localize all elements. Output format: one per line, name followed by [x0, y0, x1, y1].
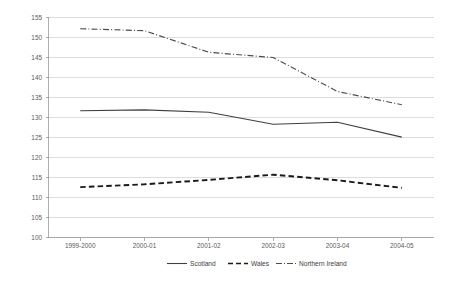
legend-label-northern-ireland: Northern Ireland — [299, 260, 347, 267]
y-tick-label: 115 — [32, 174, 43, 181]
y-tick-label: 135 — [31, 94, 42, 101]
chart-canvas: 155 150 145 140 135 130 125 120 115 110 … — [0, 0, 458, 283]
y-tick-label: 105 — [31, 214, 42, 221]
y-tick-label: 125 — [31, 134, 42, 141]
legend-label-scotland: Scotland — [190, 260, 216, 267]
y-axis-labels: 155 150 145 140 135 130 125 120 115 110 … — [31, 14, 42, 241]
y-tick-label: 155 — [31, 14, 42, 21]
y-tick-label: 145 — [31, 54, 42, 61]
y-tickmarks — [46, 18, 49, 238]
chart-legend: Scotland Wales Northern Ireland — [167, 260, 347, 267]
y-tick-label: 120 — [31, 154, 42, 161]
series-line-wales — [80, 175, 402, 188]
y-tick-label: 140 — [31, 74, 42, 81]
legend-label-wales: Wales — [251, 260, 270, 267]
x-tick-label: 2000-01 — [133, 242, 157, 249]
x-tickmarks — [80, 238, 402, 241]
data-series — [80, 29, 402, 188]
series-line-scotland — [80, 110, 402, 137]
y-tick-label: 110 — [32, 194, 43, 201]
x-tick-label: 1999-2000 — [65, 242, 96, 249]
y-tick-label: 150 — [31, 34, 42, 41]
x-tick-label: 2003-04 — [326, 242, 350, 249]
gridlines — [48, 18, 434, 238]
x-tick-label: 2004-05 — [390, 242, 414, 249]
line-chart: 155 150 145 140 135 130 125 120 115 110 … — [0, 0, 458, 283]
y-tick-label: 100 — [31, 234, 42, 241]
x-tick-label: 2001-02 — [197, 242, 221, 249]
series-line-northern-ireland — [80, 29, 402, 105]
x-tick-label: 2002-03 — [261, 242, 285, 249]
y-tick-label: 130 — [31, 114, 42, 121]
x-axis-labels: 1999-2000 2000-01 2001-02 2002-03 2003-0… — [65, 242, 414, 249]
